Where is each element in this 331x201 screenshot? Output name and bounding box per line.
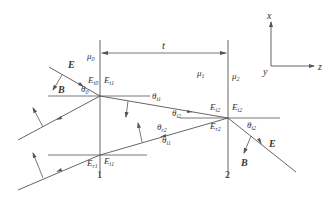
mu1-label: μ1 [196,68,205,79]
theta-i1-label: θi1 [162,135,171,146]
thickness-arrow [101,51,227,55]
interface-2-label: 2 [225,169,230,180]
mu2-label: μ2 [231,71,240,82]
incident-B-label: B [57,84,65,95]
thickness-label: t [162,39,166,51]
theta0-label: θ0 [81,84,88,95]
wave-reflection-diagram: x z y t μ0 μ1 μ2 E B θ0 Ei0 Et1 θt1 θi2 … [0,0,331,201]
transmitted-ray-slab [100,96,228,118]
Er2-label: Er2 [209,121,221,132]
Ei2-label: Ei2 [209,102,220,113]
Ei0-label: Ei0 [87,75,98,86]
y-axis-label: y [262,66,268,77]
incident-E-label: E [67,59,75,70]
theta-t1-label: θt1 [152,91,161,102]
output-ray [228,118,296,172]
Ei1-label: Ei1 [103,156,114,167]
x-axis-label: x [266,10,272,21]
z-axis-label: z [317,61,322,72]
coordinate-axes [271,22,314,66]
mu0-label: μ0 [86,51,95,62]
labels: x z y t μ0 μ1 μ2 E B θ0 Ei0 Et1 θt1 θi2 … [57,10,322,180]
output-E-label: E [268,138,276,149]
Et1-label: Et1 [103,75,114,86]
theta-r2-label: θr2 [157,122,167,133]
Et2-label: Et2 [231,102,242,113]
reflected-ray-0 [18,96,100,140]
theta-t2-label: θt2 [247,120,256,131]
Er1-label: Er1 [86,158,98,169]
interface-1-label: 1 [97,169,102,180]
output-B-label: B [240,157,248,168]
